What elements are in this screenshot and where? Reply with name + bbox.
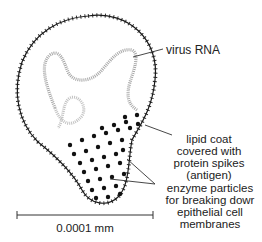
scale-bar <box>17 211 153 219</box>
label-line: protein spikes <box>160 157 258 169</box>
label-line: (antigen) <box>160 169 258 181</box>
label-line: membranes <box>160 218 260 230</box>
label-line: for breaking dowr <box>160 194 260 206</box>
label-line: enzyme particles <box>160 182 260 194</box>
scale-bar-label: 0.0001 mm <box>50 222 120 234</box>
label-line: covered with <box>160 145 258 157</box>
label-line: lipid coat <box>160 133 258 145</box>
label-line: epithelial cell <box>160 206 260 218</box>
label-virus-rna: virus RNA <box>166 44 220 56</box>
label-lipid-coat: lipid coat covered with protein spikes (… <box>160 133 258 181</box>
virus-rna-strand <box>44 50 137 110</box>
label-enzyme-particles: enzyme particles for breaking dowr epith… <box>160 182 260 230</box>
